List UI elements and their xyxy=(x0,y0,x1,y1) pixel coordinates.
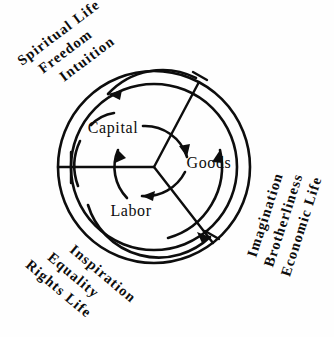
label-goods: Goods xyxy=(187,154,232,171)
outer-label-spiritual-life: Spiritual Life Freedom Intuition xyxy=(14,0,125,99)
inner-node-labels: Capital Labor Goods xyxy=(88,119,232,219)
diagram-canvas: Capital Labor Goods Spiritual Life Freed… xyxy=(0,0,334,337)
arc-inner-labor-arrowhead xyxy=(142,191,155,201)
label-capital: Capital xyxy=(88,119,138,137)
arc-inner-labor xyxy=(142,172,185,196)
label-labor: Labor xyxy=(110,202,151,219)
threefold-social-order-diagram: Capital Labor Goods Spiritual Life Freed… xyxy=(0,0,334,337)
outer-label-economic-life: Imagination Brotherliness Economic Life xyxy=(241,163,325,279)
arc-stub-left xyxy=(74,141,80,186)
arc-inner-capital xyxy=(143,126,187,157)
